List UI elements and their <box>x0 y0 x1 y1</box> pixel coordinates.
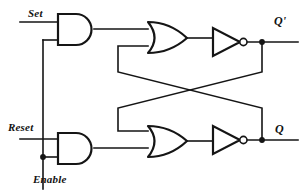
inverter-bottom-triangle <box>213 126 240 154</box>
and-gate-set-body <box>58 14 91 45</box>
inverter-top-bubble-icon <box>240 38 247 45</box>
wire-feedback-q-to-or-top <box>118 46 262 140</box>
label-set: Set <box>28 8 43 19</box>
inverter-top-triangle <box>213 28 240 56</box>
circuit-diagram-canvas: Set Reset Enable Q' Q <box>0 0 301 194</box>
wire-feedback-qprime-to-or-bottom <box>118 42 262 131</box>
junction-dot-q <box>259 137 265 143</box>
inverter-bottom[interactable] <box>213 126 247 154</box>
and-gate-reset[interactable] <box>58 133 92 164</box>
and-gate-reset-body <box>58 133 92 164</box>
label-q-prime: Q' <box>274 15 286 27</box>
or-gate-bottom-body <box>148 126 187 157</box>
or-gate-bottom[interactable] <box>148 126 187 157</box>
inverter-top[interactable] <box>213 28 247 56</box>
or-gate-top[interactable] <box>148 22 187 53</box>
circuit-schematic <box>0 0 301 194</box>
or-gate-top-body <box>148 22 187 53</box>
and-gate-set[interactable] <box>58 14 91 45</box>
label-enable: Enable <box>33 174 67 185</box>
inverter-bottom-bubble-icon <box>240 136 247 143</box>
junction-dot-q-prime <box>259 39 265 45</box>
label-q: Q <box>275 123 284 135</box>
junction-dot-enable-tap <box>40 154 46 160</box>
label-reset: Reset <box>8 122 33 133</box>
